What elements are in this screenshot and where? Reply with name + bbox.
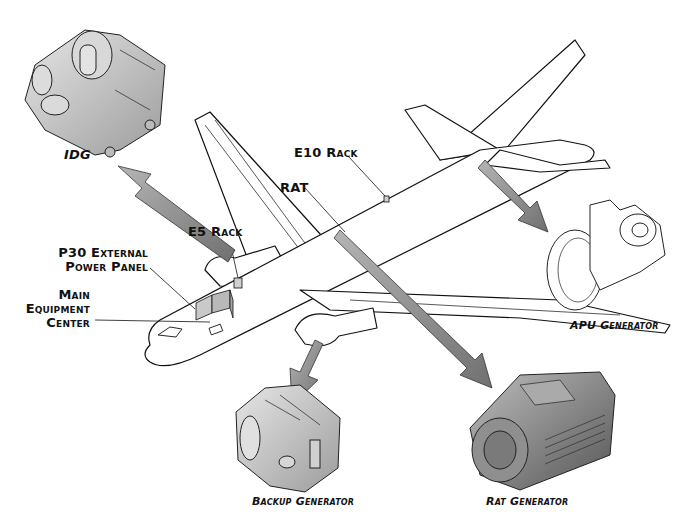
label-p30-line1: P30 External — [50, 246, 148, 260]
label-apu-generator: APU Generator — [570, 319, 659, 333]
label-mec-line2: Equipment — [8, 302, 90, 316]
label-e10-rack: E10 Rack — [294, 146, 358, 160]
label-mec-line3: Center — [8, 316, 90, 330]
e10-rack-box — [384, 196, 389, 202]
label-rat-generator: Rat Generator — [486, 495, 568, 509]
label-rat: RAT — [280, 181, 309, 195]
apu-generator-component — [547, 200, 665, 310]
backup-generator-component — [236, 385, 340, 492]
label-e5-rack: E5 Rack — [188, 225, 242, 239]
label-idg: IDG — [64, 148, 91, 162]
e5-rack-box — [234, 278, 242, 288]
label-mec-line1: Main — [8, 288, 90, 302]
right-engine — [295, 308, 377, 346]
airplane — [145, 40, 670, 366]
label-p30-line2: Power Panel — [50, 260, 148, 274]
label-backup-generator: Backup Generator — [252, 495, 354, 509]
idg-component — [25, 30, 165, 157]
rat-generator-component — [470, 372, 615, 490]
label-p30-external-power-panel: P30 External Power Panel — [50, 246, 148, 274]
label-main-equipment-center: Main Equipment Center — [8, 288, 90, 330]
